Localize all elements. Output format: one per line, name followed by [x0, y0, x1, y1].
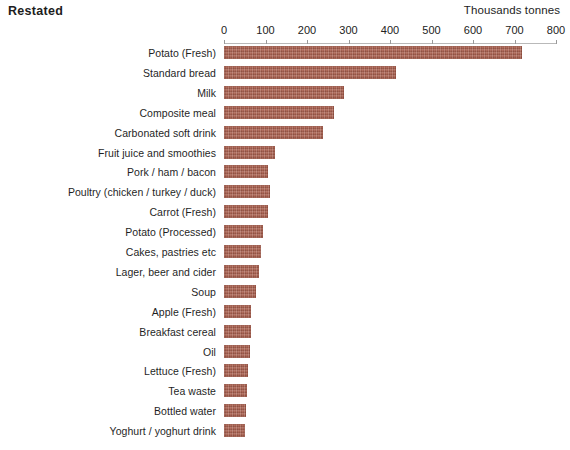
bar	[224, 46, 522, 59]
bar	[224, 364, 248, 377]
x-tick-mark	[390, 40, 391, 44]
category-label: Lettuce (Fresh)	[0, 365, 216, 378]
bar	[224, 126, 323, 139]
x-tick-label: 700	[505, 24, 523, 36]
category-label: Carrot (Fresh)	[0, 206, 216, 219]
bar	[224, 305, 251, 318]
category-label: Potato (Processed)	[0, 226, 216, 239]
x-tick-label: 600	[464, 24, 482, 36]
bar	[224, 265, 259, 278]
category-label: Pork / ham / bacon	[0, 166, 216, 179]
x-tick-mark	[307, 40, 308, 44]
bar	[224, 205, 268, 218]
bar	[224, 285, 256, 298]
x-tick-mark	[266, 40, 267, 44]
page-title: Restated	[8, 4, 63, 18]
category-label: Apple (Fresh)	[0, 306, 216, 319]
bar	[224, 225, 263, 238]
category-label: Soup	[0, 286, 216, 299]
bar	[224, 424, 245, 437]
x-tick-label: 0	[221, 24, 227, 36]
bar	[224, 384, 247, 397]
category-label: Milk	[0, 87, 216, 100]
plot-area	[224, 44, 556, 442]
category-label: Oil	[0, 346, 216, 359]
category-label: Bottled water	[0, 405, 216, 418]
bar	[224, 146, 275, 159]
x-tick-mark	[515, 40, 516, 44]
x-axis-tick-labels: 0100200300400500600700800	[224, 24, 556, 40]
x-tick-mark	[473, 40, 474, 44]
bar	[224, 345, 250, 358]
bar	[224, 404, 246, 417]
x-tick-label: 100	[256, 24, 274, 36]
category-label: Standard bread	[0, 67, 216, 80]
category-label: Potato (Fresh)	[0, 47, 216, 60]
x-tick-label: 500	[422, 24, 440, 36]
x-tick-mark	[432, 40, 433, 44]
category-label: Yoghurt / yoghurt drink	[0, 425, 216, 438]
x-tick-mark	[224, 40, 225, 44]
x-tick-label: 300	[339, 24, 357, 36]
category-label: Breakfast cereal	[0, 326, 216, 339]
x-tick-mark	[556, 40, 557, 44]
bar	[224, 185, 270, 198]
bar	[224, 66, 396, 79]
category-label: Poultry (chicken / turkey / duck)	[0, 186, 216, 199]
category-label: Carbonated soft drink	[0, 127, 216, 140]
x-tick-label: 200	[298, 24, 316, 36]
category-label: Fruit juice and smoothies	[0, 147, 216, 160]
x-tick-mark	[349, 40, 350, 44]
bar	[224, 86, 344, 99]
category-label: Composite meal	[0, 107, 216, 120]
category-label: Cakes, pastries etc	[0, 246, 216, 259]
bar	[224, 245, 261, 258]
x-tick-label: 800	[547, 24, 565, 36]
x-axis-title: Thousands tonnes	[464, 4, 560, 16]
bar	[224, 106, 334, 119]
category-label: Lager, beer and cider	[0, 266, 216, 279]
bar	[224, 325, 251, 338]
category-axis-labels: Potato (Fresh)Standard breadMilkComposit…	[0, 44, 216, 442]
category-label: Tea waste	[0, 385, 216, 398]
bar-chart: Restated Thousands tonnes 01002003004005…	[0, 0, 570, 450]
x-tick-label: 400	[381, 24, 399, 36]
bar	[224, 165, 268, 178]
